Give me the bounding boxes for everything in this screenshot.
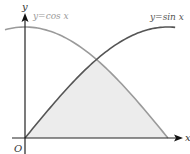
cos-label: y=cos x bbox=[32, 11, 69, 21]
x-axis-label: x bbox=[185, 132, 190, 143]
shaded-region bbox=[25, 60, 168, 138]
y-axis-label: y bbox=[21, 1, 28, 12]
sin-label: y=sin x bbox=[149, 12, 184, 22]
origin-label: O bbox=[14, 143, 22, 154]
trig-area-chart: y x O y=cos x y=sin x bbox=[0, 0, 190, 154]
